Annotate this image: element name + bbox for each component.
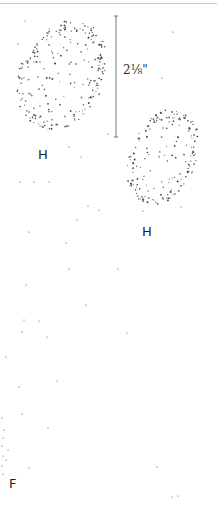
stippled-shape-right: [127, 110, 198, 205]
scattered-dots: [1, 20, 181, 497]
figure-label-h-2: H: [142, 225, 152, 238]
stippled-shapes: [17, 21, 199, 205]
figure-label-h-1: H: [38, 148, 48, 161]
stipple-drawing: [0, 0, 217, 505]
stippled-shape-upper-left: [17, 21, 106, 130]
figure-label-f: F: [9, 477, 16, 490]
measurement-label: 2⅛": [123, 64, 148, 76]
